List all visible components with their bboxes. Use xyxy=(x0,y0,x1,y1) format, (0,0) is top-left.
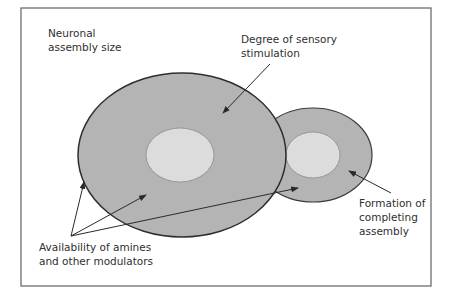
label-line: Formation of xyxy=(359,197,426,209)
label-line: Degree of sensory xyxy=(241,33,337,45)
label-line: completing xyxy=(359,211,418,223)
label-line: and other modulators xyxy=(39,255,153,267)
neuronal-assembly-diagram: Neuronal assembly size Degree of sensory… xyxy=(0,0,454,295)
main-assembly-core xyxy=(146,128,214,182)
label-line: assembly xyxy=(359,225,409,237)
label-line: Neuronal xyxy=(48,27,96,39)
label-line: assembly size xyxy=(48,41,122,53)
label-line: stimulation xyxy=(241,47,300,59)
label-line: Availability of amines xyxy=(39,241,151,253)
completing-assembly-core xyxy=(286,132,340,178)
